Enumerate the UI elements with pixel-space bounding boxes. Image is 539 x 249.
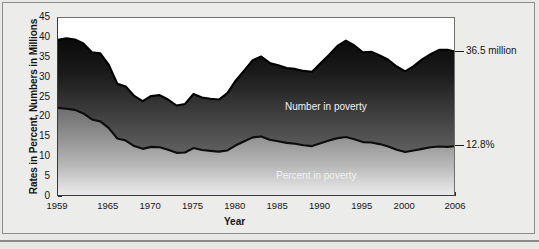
x-tick-label: 1990 (300, 201, 340, 211)
number-callout-leader (455, 51, 464, 52)
x-tick-label: 1975 (172, 201, 212, 211)
y-tick-label: 20 (28, 111, 50, 121)
y-tick-label: 30 (28, 72, 50, 82)
x-tick-label: 1959 (37, 201, 77, 211)
x-tick-label: 2006 (435, 201, 475, 211)
y-tick-mark (58, 196, 62, 197)
percent-callout-label: 12.8% (466, 139, 494, 150)
y-tick-label: 45 (28, 12, 50, 22)
y-tick-label: 15 (28, 131, 50, 141)
x-tick-label: 1980 (215, 201, 255, 211)
poverty-chart-figure: Rates in Percent, Numbers in Millions 45… (0, 0, 539, 249)
area-chart-svg (58, 18, 455, 196)
y-tick-label: 40 (28, 32, 50, 42)
number-callout-label: 36.5 million (466, 45, 517, 56)
x-tick-label: 1985 (257, 201, 297, 211)
y-tick-label: 35 (28, 52, 50, 62)
x-tick-mark (455, 192, 456, 196)
x-tick-label: 2000 (384, 201, 424, 211)
x-tick-label: 1995 (342, 201, 382, 211)
footer-note (4, 242, 304, 249)
percent-series-label: Percent in poverty (276, 170, 357, 181)
y-tick-label: 5 (28, 171, 50, 181)
plot-area: Number in poverty Percent in poverty (57, 17, 455, 196)
x-axis-title: Year (224, 216, 245, 227)
x-tick-label: 1970 (130, 201, 170, 211)
percent-callout-leader (455, 145, 464, 146)
y-tick-label: 25 (28, 92, 50, 102)
y-tick-label: 10 (28, 151, 50, 161)
number-series-label: Number in poverty (285, 101, 367, 112)
x-tick-label: 1965 (88, 201, 128, 211)
